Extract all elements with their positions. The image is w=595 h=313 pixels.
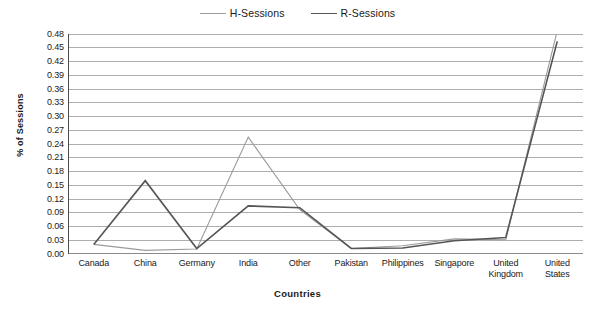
y-axis-tick-label: 0.09 <box>34 208 64 217</box>
x-axis-tick-label: United Kingdom <box>480 258 532 280</box>
series-line-r-sessions <box>94 41 558 248</box>
legend-entry-r-sessions[interactable]: R-Sessions <box>311 8 396 19</box>
y-axis-tick-label: 0.21 <box>34 153 64 162</box>
y-axis-tick-label: 0.06 <box>34 222 64 231</box>
x-axis-tick-label: United States <box>532 258 584 280</box>
x-axis-tick-label: Philippines <box>377 258 429 269</box>
line-chart: H-Sessions R-Sessions % of Sessions 0.48… <box>0 0 595 313</box>
legend-swatch-r-sessions <box>311 13 337 14</box>
x-axis-tick-label: Pakistan <box>326 258 378 269</box>
x-axis-tick-label: China <box>120 258 172 269</box>
y-axis-tick-label: 0.18 <box>34 167 64 176</box>
y-axis-tick-label: 0.30 <box>34 112 64 121</box>
y-axis-tick-label: 0.00 <box>34 250 64 259</box>
legend-entry-h-sessions[interactable]: H-Sessions <box>200 8 285 19</box>
legend-swatch-h-sessions <box>200 13 226 14</box>
y-axis-tick-label: 0.39 <box>34 71 64 80</box>
plot-svg <box>68 34 583 254</box>
chart-legend: H-Sessions R-Sessions <box>0 8 595 19</box>
x-axis-title: Countries <box>0 288 595 299</box>
y-axis-tick-label: 0.15 <box>34 181 64 190</box>
legend-label-r-sessions: R-Sessions <box>341 8 396 19</box>
x-axis-tick-label: Canada <box>68 258 120 269</box>
x-axis-tick-labels: CanadaChinaGermanyIndiaOtherPakistanPhil… <box>68 258 583 292</box>
x-axis-tick-label: Other <box>274 258 326 269</box>
y-axis-tick-label: 0.45 <box>34 43 64 52</box>
y-axis-tick-label: 0.24 <box>34 140 64 149</box>
y-axis-tick-label: 0.42 <box>34 57 64 66</box>
y-axis-title: % of Sessions <box>15 77 25 173</box>
y-axis-tick-labels: 0.480.450.420.390.360.330.300.270.240.21… <box>30 34 64 254</box>
x-axis-tick-label: Singapore <box>429 258 481 269</box>
x-axis-tick-label: Germany <box>171 258 223 269</box>
y-axis-tick-label: 0.48 <box>34 30 64 39</box>
y-axis-tick-label: 0.12 <box>34 195 64 204</box>
y-axis-tick-label: 0.36 <box>34 85 64 94</box>
y-axis-tick-label: 0.27 <box>34 126 64 135</box>
plot-area <box>68 34 583 254</box>
y-axis-tick-label: 0.33 <box>34 98 64 107</box>
y-axis-tick-label: 0.03 <box>34 236 64 245</box>
series-line-h-sessions <box>94 34 558 250</box>
x-axis-tick-label: India <box>223 258 275 269</box>
legend-label-h-sessions: H-Sessions <box>230 8 285 19</box>
